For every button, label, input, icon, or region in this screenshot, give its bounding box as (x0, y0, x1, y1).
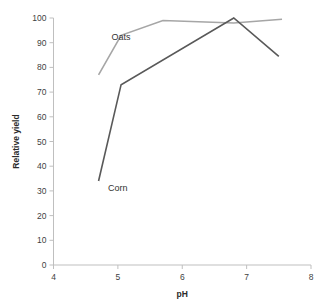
y-tick-label: 80 (37, 62, 47, 72)
y-tick-label: 0 (42, 260, 47, 270)
line-chart: 0102030405060708090100 45678 OatsCorn Re… (0, 0, 322, 302)
y-axis-tick-labels: 0102030405060708090100 (32, 13, 53, 270)
series-line-corn (99, 18, 279, 181)
y-tick-label: 40 (37, 161, 47, 171)
x-axis-tick-labels: 45678 (51, 265, 314, 282)
y-tick-label: 50 (37, 137, 47, 147)
x-tick-label: 7 (244, 272, 249, 282)
x-tick-label: 5 (116, 272, 121, 282)
x-tick-label: 8 (309, 272, 314, 282)
y-tick-label: 10 (37, 235, 47, 245)
x-tick-label: 4 (51, 272, 56, 282)
y-tick-label: 100 (32, 13, 46, 23)
y-tick-label: 20 (37, 211, 47, 221)
series-annotation-oats: Oats (112, 32, 132, 42)
y-tick-label: 90 (37, 38, 47, 48)
y-axis-title: Relative yield (11, 114, 21, 168)
chart-container: 0102030405060708090100 45678 OatsCorn Re… (0, 0, 322, 302)
x-axis-title: pH (177, 289, 188, 299)
axis-lines (54, 18, 312, 265)
y-tick-label: 30 (37, 186, 47, 196)
y-tick-label: 70 (37, 87, 47, 97)
series-annotations: OatsCorn (108, 32, 131, 193)
y-tick-label: 60 (37, 112, 47, 122)
data-series-group (99, 18, 282, 181)
series-annotation-corn: Corn (108, 183, 128, 193)
series-line-oats (99, 19, 282, 75)
x-tick-label: 6 (180, 272, 185, 282)
